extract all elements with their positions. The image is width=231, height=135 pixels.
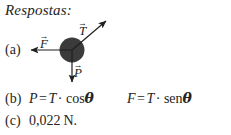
theta-symbol: θ	[85, 90, 94, 106]
equation-lhs: P	[29, 91, 38, 106]
theta-symbol: θ	[183, 90, 192, 106]
equation-lhs: F	[127, 91, 136, 106]
answer-label-a: (a)	[5, 41, 21, 59]
answer-label-b: (b)	[5, 89, 29, 109]
dot-operator: ·	[56, 91, 64, 106]
cosine-function: cos	[64, 91, 85, 106]
answer-label-c: (c)	[5, 111, 29, 131]
vector-accent-icon: →	[39, 32, 48, 41]
answer-value-c: 0,022	[29, 113, 61, 128]
weight-vector-label: →P	[74, 66, 82, 79]
answer-row-b: (b)P=T·cosθF=T·senθ	[5, 88, 231, 108]
tension-vector-label: →T	[79, 24, 86, 37]
sine-function: sen	[162, 91, 183, 106]
equals-sign: =	[136, 91, 147, 106]
equation-weight: P=T·cosθ	[29, 91, 94, 106]
vector-accent-icon: →	[78, 19, 87, 28]
dot-operator: ·	[154, 91, 162, 106]
equals-sign: =	[38, 91, 49, 106]
equation-force: F=T·senθ	[127, 88, 192, 109]
force-vector-label: →F	[40, 37, 48, 50]
answer-unit-c: N.	[61, 113, 78, 128]
answers-figure: Respostas: (a) →T →F →P	[0, 0, 231, 135]
free-body-diagram: →T →F →P	[26, 14, 131, 86]
answer-row-c: (c)0,022N.	[5, 111, 77, 131]
tension-vector-arrow	[72, 21, 106, 50]
vector-accent-icon: →	[73, 61, 82, 70]
